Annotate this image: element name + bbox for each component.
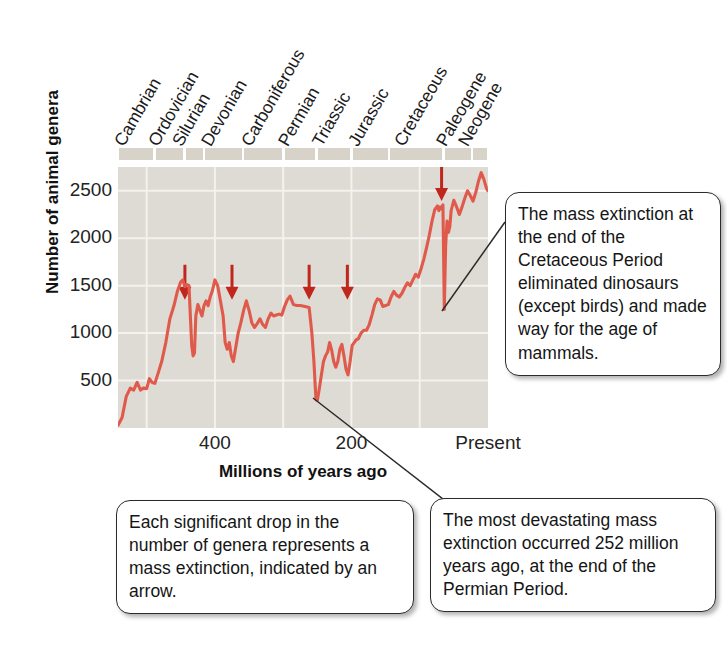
period-segment-cambrian (119, 148, 153, 160)
extinction-arrow-cretaceous-paleogene (435, 167, 448, 201)
chart-plot-area (118, 167, 488, 428)
x-tick-400: 400 (165, 432, 265, 454)
x-tick-present: Present (438, 432, 538, 454)
extinction-arrow-permian-triassic (303, 265, 316, 300)
y-tick-500: 500 (50, 369, 112, 391)
period-segment-triassic (318, 148, 350, 160)
extinction-line-chart (118, 167, 488, 428)
period-segment-jurassic (353, 148, 388, 160)
callout-cretaceous-extinction: The mass extinction at the end of the Cr… (505, 192, 721, 376)
y-axis-label: Number of animal genera (43, 77, 63, 307)
period-segment-paleogene (445, 148, 471, 160)
geologic-period-bar (118, 148, 488, 160)
genera-count-line (118, 173, 488, 425)
callout-permian-extinction: The most devastating mass extinction occ… (430, 498, 716, 612)
extinction-arrow-late-devonian (226, 265, 239, 300)
chart-gridlines (118, 167, 488, 428)
period-segment-neogene (473, 148, 486, 160)
period-segment-silurian (186, 148, 203, 160)
y-tick-1000: 1000 (50, 321, 112, 343)
extinction-arrow-markers (178, 167, 448, 300)
period-segment-devonian (205, 148, 241, 160)
period-segment-carboniferous (244, 148, 282, 160)
x-axis-label: Millions of years ago (118, 462, 488, 482)
period-segment-ordovician (156, 148, 183, 160)
x-tick-200: 200 (301, 432, 401, 454)
period-segment-permian (285, 148, 315, 160)
callout-arrow-legend: Each significant drop in the number of g… (116, 500, 414, 614)
period-segment-cretaceous (390, 148, 442, 160)
period-label-jurassic: Jurassic (344, 85, 394, 150)
